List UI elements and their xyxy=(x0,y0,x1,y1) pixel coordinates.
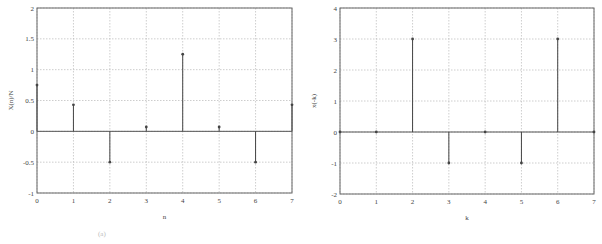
y-tick-label: 0 xyxy=(31,128,35,136)
right-stem-plot: 01234567-2-101234kx(-k) xyxy=(300,0,602,244)
stem-marker xyxy=(72,103,75,106)
y-tick-label: -1 xyxy=(331,160,337,168)
x-tick-label: 7 xyxy=(592,198,596,206)
y-tick-label: 1.5 xyxy=(25,35,34,43)
x-tick-label: 2 xyxy=(108,197,112,205)
stem-marker xyxy=(218,126,221,129)
y-tick-label: 4 xyxy=(334,5,338,13)
y-axis-label: x(-k) xyxy=(310,93,318,108)
x-tick-label: 5 xyxy=(217,197,221,205)
stem-marker xyxy=(484,131,487,134)
y-tick-label: 1 xyxy=(334,98,338,106)
y-tick-label: 2 xyxy=(334,67,338,75)
y-tick-label: -0.5 xyxy=(23,159,35,167)
y-tick-label: 3 xyxy=(334,36,338,44)
stem-marker xyxy=(108,161,111,164)
y-tick-label: 1 xyxy=(31,66,35,74)
x-tick-label: 0 xyxy=(338,198,342,206)
y-axis-label: X(n)/N xyxy=(7,90,15,110)
stem-marker xyxy=(145,126,148,129)
x-tick-label: 2 xyxy=(411,198,415,206)
x-tick-label: 4 xyxy=(483,198,487,206)
stem-marker xyxy=(181,53,184,56)
x-tick-label: 7 xyxy=(290,197,294,205)
y-tick-label: 0 xyxy=(334,129,338,137)
stem-marker xyxy=(339,131,342,134)
x-tick-label: 4 xyxy=(181,197,185,205)
stem-marker xyxy=(593,131,596,134)
left-stem-plot: 01234567-1-0.500.511.52nX(n)/N xyxy=(0,0,300,244)
stem-marker xyxy=(411,38,414,41)
x-tick-label: 1 xyxy=(375,198,379,206)
stem-marker xyxy=(556,38,559,41)
y-tick-label: -2 xyxy=(331,191,337,199)
x-tick-label: 5 xyxy=(520,198,524,206)
stem-marker xyxy=(291,103,294,106)
x-tick-label: 1 xyxy=(72,197,76,205)
x-tick-label: 3 xyxy=(145,197,149,205)
x-tick-label: 3 xyxy=(447,198,451,206)
figure-caption: (a) xyxy=(98,230,106,238)
x-tick-label: 0 xyxy=(35,197,39,205)
x-axis-label: k xyxy=(465,214,469,222)
stem-marker xyxy=(447,162,450,165)
y-tick-label: -1 xyxy=(28,190,34,198)
y-tick-label: 0.5 xyxy=(25,97,34,105)
x-tick-label: 6 xyxy=(254,197,258,205)
y-tick-label: 2 xyxy=(31,5,35,13)
x-tick-label: 6 xyxy=(556,198,560,206)
stem-marker xyxy=(36,84,39,87)
stem-marker xyxy=(375,131,378,134)
stem-marker xyxy=(254,161,257,164)
stem-marker xyxy=(520,162,523,165)
x-axis-label: n xyxy=(163,213,167,221)
